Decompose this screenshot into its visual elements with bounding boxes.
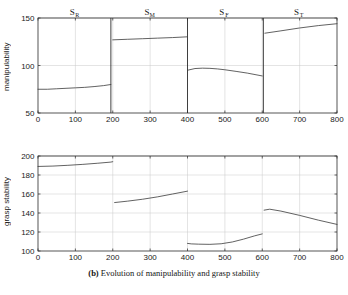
y-tick-label: 150 — [21, 14, 35, 23]
phase-label-main: S — [294, 7, 299, 17]
figure-container: manipulability 0100200300400500600700800… — [0, 0, 348, 295]
chart-grasp-stability: grasp stability 010020030040050060070080… — [0, 148, 348, 266]
x-tick-label: 400 — [181, 115, 195, 124]
phase-label-subscript: R — [75, 12, 79, 18]
x-tick-label: 500 — [218, 115, 232, 124]
x-tick-label: 100 — [69, 253, 83, 262]
x-tick-label: 800 — [330, 115, 344, 124]
data-series-phase-ST — [265, 24, 337, 34]
data-series-phase-SM — [115, 191, 188, 202]
phase-label-R: SR — [70, 7, 80, 18]
x-tick-label: 600 — [256, 115, 270, 124]
figure-caption: (b) Evolution of manipulability and gras… — [0, 268, 348, 278]
x-tick-label: 300 — [143, 115, 157, 124]
phase-label-subscript: F — [225, 12, 229, 18]
x-tick-label: 600 — [256, 253, 270, 262]
y-tick-label: 120 — [21, 228, 35, 237]
y-tick-label: 180 — [21, 171, 35, 180]
phase-label-subscript: T — [300, 12, 304, 18]
caption-prefix: (b) — [88, 268, 98, 278]
x-tick-label: 700 — [293, 115, 307, 124]
x-tick-label: 0 — [36, 253, 41, 262]
phase-label-main: S — [70, 7, 75, 17]
x-tick-label: 0 — [36, 115, 41, 124]
x-tick-label: 800 — [330, 253, 344, 262]
x-tick-label: 400 — [181, 253, 195, 262]
y-tick-label: 140 — [21, 209, 35, 218]
phase-label-M: SM — [145, 7, 156, 18]
chart-manipulability: manipulability 0100200300400500600700800… — [0, 0, 348, 140]
phase-label-T: ST — [294, 7, 304, 18]
y-tick-label: 160 — [21, 190, 35, 199]
y-tick-label: 50 — [26, 109, 35, 118]
manipulability-plot: 010020030040050060070080050100150SRSMSFS… — [0, 0, 348, 140]
phase-label-F: SF — [219, 7, 229, 18]
x-tick-label: 500 — [218, 253, 232, 262]
y-tick-label: 200 — [21, 152, 35, 161]
phase-label-subscript: M — [149, 12, 155, 18]
data-series-phase-ST — [264, 209, 337, 224]
data-series-phase-SR — [38, 85, 111, 90]
caption-text: Evolution of manipulability and grasp st… — [101, 268, 260, 278]
y-tick-label: 100 — [21, 62, 35, 71]
x-tick-label: 200 — [106, 115, 120, 124]
x-tick-label: 300 — [143, 253, 157, 262]
x-tick-label: 700 — [293, 253, 307, 262]
grasp-stability-plot: 0100200300400500600700800100120140160180… — [0, 148, 348, 266]
phase-label-main: S — [219, 7, 224, 17]
y-tick-label: 100 — [21, 247, 35, 256]
x-tick-label: 200 — [106, 253, 120, 262]
x-tick-label: 100 — [69, 115, 83, 124]
